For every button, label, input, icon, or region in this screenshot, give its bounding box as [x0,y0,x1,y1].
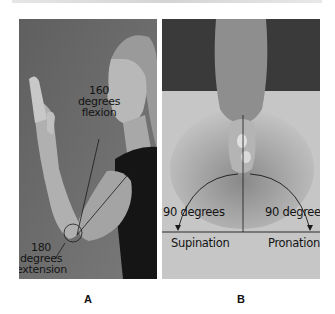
extension-name: extension [19,264,66,275]
figure-canvas: 160 degrees flexion 180 degrees extensio… [0,0,335,314]
flexion-label: 160 degrees flexion [76,85,122,118]
top-rule [12,0,322,3]
pronation-angle-label: 90 degrees [265,207,320,219]
elbow-flexion-illustration [19,19,157,279]
panel-a-photo: 160 degrees flexion 180 degrees extensio… [19,19,157,279]
supination-label: Supination [171,238,229,250]
pronation-label: Pronation [268,238,320,250]
flexion-name: flexion [76,107,122,118]
panel-b-caption: B [237,293,245,305]
panel-a-caption: A [84,293,92,305]
panel-b-photo: 90 degrees 90 degrees Supination Pronati… [162,19,320,279]
supination-angle-label: 90 degrees [163,207,225,219]
extension-label: 180 degrees extension [19,242,66,275]
